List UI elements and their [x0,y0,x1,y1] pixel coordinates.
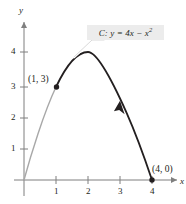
curve-lead-in-segment [24,87,56,180]
y-axis-label: y [19,6,23,15]
x-tick-label-1: 1 [54,187,59,196]
point-label-4-0: (4, 0) [152,165,173,175]
equation-body: y = 4x − x [110,28,149,38]
point-marker-4-0 [149,177,154,182]
x-tick-label-3: 3 [118,187,123,196]
point-marker-1-3 [54,84,59,89]
x-tick-label-4: 4 [150,187,155,196]
y-tick-label-3: 3 [11,82,16,91]
point-label-1-3: (1, 3) [28,75,49,85]
equation-curve-name: C: [99,28,108,38]
curve-main-segment [56,52,152,180]
curve-equation-text: C: y = 4x − x2 [99,28,153,38]
y-tick-label-1: 1 [11,144,16,153]
curve-equation-label: C: y = 4x − x2 [87,25,164,40]
x-tick-label-2: 2 [86,187,91,196]
y-tick-label-4: 4 [11,47,16,56]
y-tick-label-2: 2 [11,113,16,122]
equation-exponent: 2 [149,26,152,33]
parabola-figure: C: y = 4x − x2 y x 4 3 2 1 1 2 3 4 (1, 3… [0,0,186,204]
x-axis-label: x [180,177,184,186]
